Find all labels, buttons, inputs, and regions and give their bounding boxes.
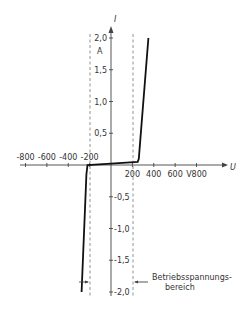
x-tick-label: -600 bbox=[38, 153, 56, 162]
annotation-line2: bereich bbox=[165, 283, 195, 292]
y-tick-label: -1,0 bbox=[114, 225, 130, 234]
y-tick-label: 1,5 bbox=[94, 66, 107, 75]
y-tick-label: -2,0 bbox=[114, 288, 130, 297]
x-tick-label: -800 bbox=[16, 153, 34, 162]
arrow-right-icon bbox=[85, 281, 89, 284]
y-axis-label: I bbox=[114, 15, 117, 24]
y-tick-label: 1,0 bbox=[94, 98, 107, 107]
x-tick-label: 600 bbox=[167, 170, 182, 179]
y-tick-label: 0,5 bbox=[94, 129, 107, 138]
ticks: -800-600-400-200200400600V8002,01,51,00,… bbox=[16, 34, 206, 297]
x-tick-label: 400 bbox=[146, 170, 161, 179]
annotation-line1: Betriebsspannungs- bbox=[152, 273, 232, 282]
x-axis-label: U bbox=[230, 163, 236, 172]
x-axis-arrow-icon bbox=[222, 163, 228, 168]
y-unit-label: A bbox=[97, 47, 103, 56]
arrow-left-icon bbox=[134, 281, 138, 284]
x-tick-label: 200 bbox=[125, 170, 140, 179]
x-tick-label: -400 bbox=[59, 153, 77, 162]
x-tick-label: V800 bbox=[186, 170, 207, 179]
iv-characteristic-chart: -800-600-400-200200400600V8002,01,51,00,… bbox=[0, 0, 241, 314]
y-tick-label: -0,5 bbox=[114, 193, 130, 202]
operating-range-markers bbox=[79, 281, 148, 284]
y-axis-arrow-icon bbox=[109, 26, 114, 33]
y-tick-label: 2,0 bbox=[94, 34, 107, 43]
y-tick-label: -1,5 bbox=[114, 256, 130, 265]
